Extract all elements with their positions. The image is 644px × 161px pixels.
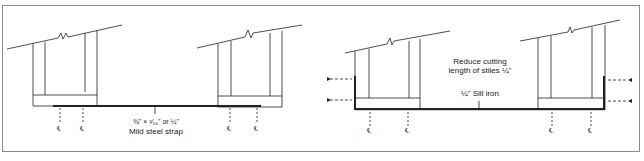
note-line-1: Reduce cutting [440, 57, 520, 66]
centerline-symbol: ℄ [588, 127, 592, 133]
centerline-symbol: ℄ [227, 125, 231, 131]
strap-dimension-label: ¾" × ³⁄₁₆" or ¼" [118, 117, 194, 126]
centerline-symbol: ℄ [405, 127, 409, 133]
window-sill-diagram [0, 0, 644, 161]
strap-label: Mild steel strap [118, 127, 194, 136]
left-panel-left-window [7, 25, 122, 106]
left-panel-right-window [197, 25, 302, 107]
right-panel-centerlines [370, 112, 591, 126]
centerline-symbol: ℄ [367, 127, 371, 133]
centerline-symbol: ℄ [254, 125, 258, 131]
centerline-symbol: ℄ [57, 125, 61, 131]
right-panel-left-window [345, 31, 450, 110]
note-line-2: length of stiles ¼" [440, 66, 520, 75]
sill-iron-label: ¼" Sill iron [450, 89, 510, 98]
centerline-symbol: ℄ [80, 125, 84, 131]
centerline-symbol: ℄ [549, 127, 553, 133]
